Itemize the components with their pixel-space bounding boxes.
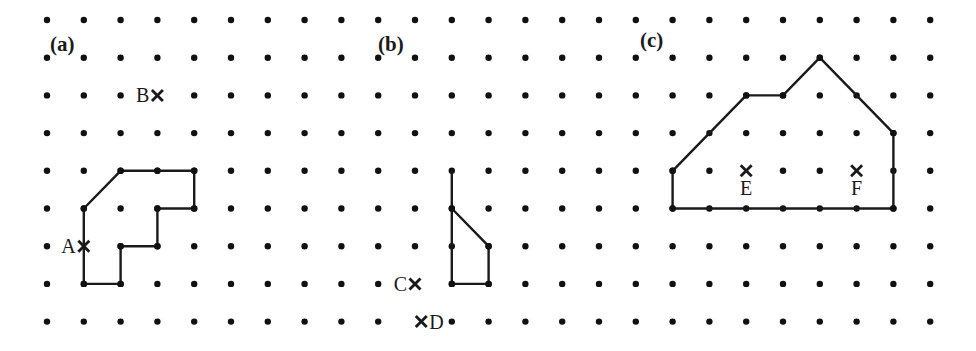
grid-dot	[669, 92, 675, 98]
grid-dot	[853, 243, 859, 249]
grid-dot	[522, 243, 528, 249]
grid-dot	[743, 318, 749, 324]
grid-dot	[265, 168, 271, 174]
grid-dot	[375, 243, 381, 249]
grid-dot	[706, 318, 712, 324]
point-label-e: E	[740, 177, 752, 199]
grid-dot	[853, 281, 859, 287]
grid-dot	[633, 205, 639, 211]
grid-dot	[301, 281, 307, 287]
grid-dot	[265, 205, 271, 211]
grid-dot	[522, 318, 528, 324]
grid-dot	[265, 55, 271, 61]
grid-dot	[375, 318, 381, 324]
grid-dot	[817, 168, 823, 174]
grid-dot	[228, 130, 234, 136]
grid-dot	[522, 205, 528, 211]
grid-dot	[927, 205, 933, 211]
vertex-dot	[817, 55, 823, 61]
grid-dot	[706, 92, 712, 98]
grid-dot	[228, 281, 234, 287]
grid-dot	[927, 92, 933, 98]
point-label-c: C	[394, 273, 407, 295]
grid-dot	[927, 243, 933, 249]
grid-dot	[154, 17, 160, 23]
panel-label-b: (b)	[378, 32, 404, 56]
grid-dot	[927, 17, 933, 23]
grid-dot	[44, 168, 50, 174]
grid-dot	[559, 55, 565, 61]
grid-dot	[154, 55, 160, 61]
grid-dot	[559, 92, 565, 98]
grid-dot	[301, 55, 307, 61]
grid-dot	[154, 281, 160, 287]
grid-dot	[780, 243, 786, 249]
grid-dot	[485, 17, 491, 23]
grid-dot	[44, 92, 50, 98]
grid-dot	[191, 92, 197, 98]
grid-dot	[890, 281, 896, 287]
grid-dot	[559, 243, 565, 249]
grid-dot	[44, 281, 50, 287]
grid-dot	[706, 168, 712, 174]
grid-dot	[559, 281, 565, 287]
grid-dot	[265, 92, 271, 98]
grid-dot	[117, 92, 123, 98]
grid-dot	[228, 92, 234, 98]
grid-dot	[301, 205, 307, 211]
vertex-dot	[485, 243, 491, 249]
grid-dot	[780, 281, 786, 287]
grid-dot	[81, 318, 87, 324]
grid-dot	[338, 130, 344, 136]
grid-dot	[522, 55, 528, 61]
grid-dot	[817, 17, 823, 23]
grid-dot	[485, 205, 491, 211]
grid-dot	[669, 281, 675, 287]
grid-dot	[596, 168, 602, 174]
grid-dot	[449, 17, 455, 23]
grid-dot	[669, 243, 675, 249]
grid-dot	[669, 318, 675, 324]
grid-dot	[44, 130, 50, 136]
grid-dot	[927, 318, 933, 324]
grid-dot	[412, 17, 418, 23]
grid-dot	[338, 281, 344, 287]
grid-dot	[633, 55, 639, 61]
grid-dot	[265, 281, 271, 287]
point-label-a: A	[61, 235, 76, 257]
dot-grid-figure: (a) (b) (c) ABCDEF	[0, 0, 976, 351]
grid-dot	[228, 55, 234, 61]
grid-dot	[117, 17, 123, 23]
grid-dot	[817, 318, 823, 324]
grid-dot	[927, 55, 933, 61]
grid-dot	[301, 17, 307, 23]
vertex-dot	[191, 168, 197, 174]
grid-dot	[375, 168, 381, 174]
grid-dot	[338, 205, 344, 211]
grid-dot	[81, 168, 87, 174]
grid-dot	[633, 243, 639, 249]
grid-dot	[669, 17, 675, 23]
vertex-dot	[154, 168, 160, 174]
grid-dot	[633, 92, 639, 98]
grid-dot	[375, 17, 381, 23]
grid-dot	[706, 55, 712, 61]
grid-dot	[780, 130, 786, 136]
cross-marker-d-icon	[416, 316, 427, 327]
grid-dot	[706, 243, 712, 249]
grid-dot	[743, 281, 749, 287]
grid-dot	[485, 55, 491, 61]
grid-dot	[81, 92, 87, 98]
grid-dot	[412, 55, 418, 61]
grid-dot	[154, 130, 160, 136]
grid-dot	[522, 168, 528, 174]
grid-dot	[559, 17, 565, 23]
grid-dot	[412, 205, 418, 211]
grid-dot	[596, 130, 602, 136]
vertex-dot	[890, 205, 896, 211]
grid-dot	[338, 168, 344, 174]
vertex-dot	[81, 205, 87, 211]
vertex-dot	[890, 130, 896, 136]
grid-dot	[117, 205, 123, 211]
grid-dot	[743, 243, 749, 249]
